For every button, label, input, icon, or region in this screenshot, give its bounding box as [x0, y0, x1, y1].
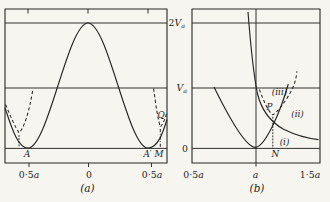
point-label-m: M	[154, 149, 165, 159]
curve-i	[248, 12, 319, 140]
panel-a-top-ticks	[28, 9, 148, 14]
figure-svg: A A′ M Q 0·5a 0 0·5a (a) 2Va Va 0	[0, 0, 330, 202]
panel-a-caption: (a)	[80, 182, 94, 194]
y-label-zero: 0	[182, 143, 188, 154]
x-tick-b-left: 0·5a	[183, 169, 203, 180]
x-tick-a-right: 0·5a	[142, 169, 162, 180]
y-axis-labels: 2Va Va 0	[169, 17, 188, 154]
y-label-va: Va	[177, 82, 188, 94]
displaced-well-right-curve	[154, 89, 167, 127]
point-label-a: A	[23, 149, 30, 159]
periodic-potential-curve	[5, 23, 167, 148]
panel-a-bottom-ticks	[29, 163, 152, 167]
y-label-2va: 2Va	[169, 17, 186, 29]
figure-page: A A′ M Q 0·5a 0 0·5a (a) 2Va Va 0	[0, 0, 330, 202]
panel-a-frame	[5, 9, 167, 163]
x-tick-a-center: 0	[86, 169, 92, 180]
x-tick-b-center: a	[253, 169, 259, 180]
panel-b-x-tick-labels: 0·5a a 1·5a	[183, 169, 320, 180]
point-label-n: N	[271, 149, 280, 159]
x-tick-a-left: 0·5a	[19, 169, 39, 180]
panel-a: A A′ M Q 0·5a 0 0·5a (a)	[5, 9, 167, 194]
panel-a-x-tick-labels: 0·5a 0 0·5a	[19, 169, 162, 180]
displaced-well-left-curve	[6, 89, 34, 133]
curve-label-ii: (ii)	[291, 109, 304, 119]
point-label-a-prime: A′	[143, 149, 152, 159]
x-tick-b-right: 1·5a	[300, 169, 320, 180]
panel-b: (iii) (ii) (i) P N 0·5a a 1·5a (b)	[183, 9, 320, 194]
point-label-q: Q	[158, 110, 165, 120]
point-label-p: P	[266, 102, 274, 112]
curve-label-iii: (iii)	[272, 87, 288, 97]
curve-label-i: (i)	[280, 137, 290, 147]
panel-b-caption: (b)	[250, 182, 265, 194]
